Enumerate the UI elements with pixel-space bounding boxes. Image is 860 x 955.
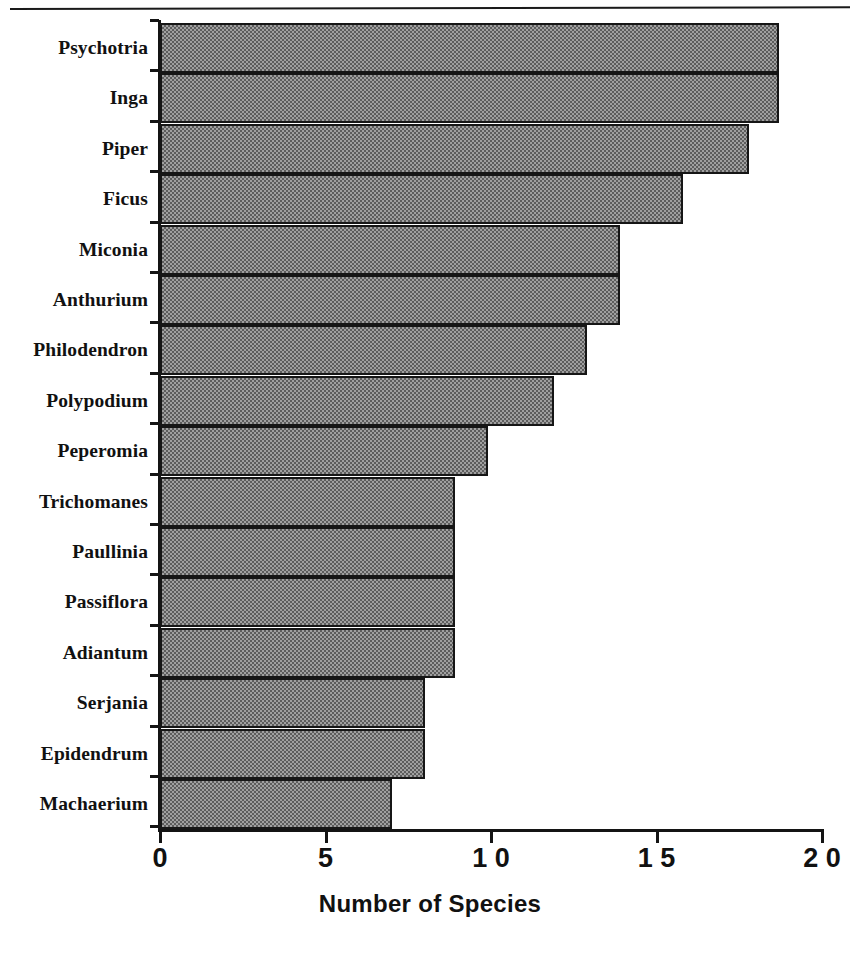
- bar-row: Trichomanes: [0, 477, 860, 527]
- category-label-philodendron: Philodendron: [0, 325, 148, 375]
- bar-polypodium: [160, 376, 554, 426]
- bar-row: Passiflora: [0, 577, 860, 627]
- bar-row: Serjania: [0, 678, 860, 728]
- bar-row: Machaerium: [0, 779, 860, 829]
- bar-row: Inga: [0, 73, 860, 123]
- category-label-anthurium: Anthurium: [0, 275, 148, 325]
- x-axis-tick-label: 5: [318, 843, 333, 874]
- x-axis-tick-label: 0: [152, 843, 167, 874]
- bar-peperomia: [160, 426, 488, 476]
- bar-row: Philodendron: [0, 325, 860, 375]
- category-label-polypodium: Polypodium: [0, 376, 148, 426]
- x-axis-tick: [821, 832, 824, 843]
- x-axis-title: Number of Species: [0, 890, 860, 918]
- category-label-trichomanes: Trichomanes: [0, 477, 148, 527]
- x-axis-tick-label: 1 0: [472, 843, 510, 874]
- bar-row: Adiantum: [0, 628, 860, 678]
- bar-row: Miconia: [0, 225, 860, 275]
- bar-psychotria: [160, 23, 779, 73]
- x-axis-tick: [656, 832, 659, 843]
- bar-row: Epidendrum: [0, 729, 860, 779]
- bar-passiflora: [160, 577, 455, 627]
- category-label-machaerium: Machaerium: [0, 779, 148, 829]
- bar-ficus: [160, 174, 683, 224]
- bar-row: Polypodium: [0, 376, 860, 426]
- category-label-epidendrum: Epidendrum: [0, 729, 148, 779]
- y-axis-tick: [150, 19, 159, 22]
- category-label-passiflora: Passiflora: [0, 577, 148, 627]
- bar-piper: [160, 124, 749, 174]
- bar-row: Piper: [0, 124, 860, 174]
- bar-row: Paullinia: [0, 527, 860, 577]
- bar-row: Psychotria: [0, 23, 860, 73]
- category-label-adiantum: Adiantum: [0, 628, 148, 678]
- x-axis-tick: [159, 832, 162, 843]
- category-label-serjania: Serjania: [0, 678, 148, 728]
- bar-philodendron: [160, 325, 587, 375]
- x-axis-tick-label: 2 0: [803, 843, 841, 874]
- bar-anthurium: [160, 275, 620, 325]
- bar-serjania: [160, 678, 425, 728]
- bar-chart-figure: PsychotriaIngaPiperFicusMiconiaAnthurium…: [0, 0, 860, 955]
- bar-trichomanes: [160, 477, 455, 527]
- x-axis-tick: [490, 832, 493, 843]
- bar-row: Anthurium: [0, 275, 860, 325]
- category-label-piper: Piper: [0, 124, 148, 174]
- category-label-inga: Inga: [0, 73, 148, 123]
- category-label-psychotria: Psychotria: [0, 23, 148, 73]
- category-label-ficus: Ficus: [0, 174, 148, 224]
- bar-row: Ficus: [0, 174, 860, 224]
- x-axis-tick-label: 1 5: [638, 843, 676, 874]
- bar-paullinia: [160, 527, 455, 577]
- bar-adiantum: [160, 628, 455, 678]
- category-label-miconia: Miconia: [0, 225, 148, 275]
- category-label-peperomia: Peperomia: [0, 426, 148, 476]
- x-axis-tick: [325, 832, 328, 843]
- bar-row: Peperomia: [0, 426, 860, 476]
- bar-miconia: [160, 225, 620, 275]
- bar-machaerium: [160, 779, 392, 829]
- bar-inga: [160, 73, 779, 123]
- plot-area: PsychotriaIngaPiperFicusMiconiaAnthurium…: [0, 0, 860, 840]
- category-label-paullinia: Paullinia: [0, 527, 148, 577]
- bar-epidendrum: [160, 729, 425, 779]
